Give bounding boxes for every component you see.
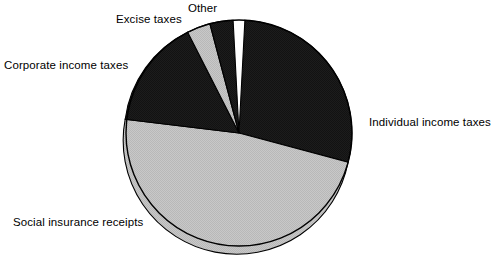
- pie-chart-figure: Individual income taxes Social insurance…: [0, 0, 498, 260]
- pie-label-individual-income-taxes: Individual income taxes: [369, 116, 491, 129]
- pie-label-other: Other: [188, 2, 217, 15]
- pie-label-excise-taxes: Excise taxes: [116, 13, 182, 26]
- pie-label-social-insurance-receipts: Social insurance receipts: [13, 216, 143, 229]
- pie-label-corporate-income-taxes: Corporate income taxes: [4, 59, 128, 72]
